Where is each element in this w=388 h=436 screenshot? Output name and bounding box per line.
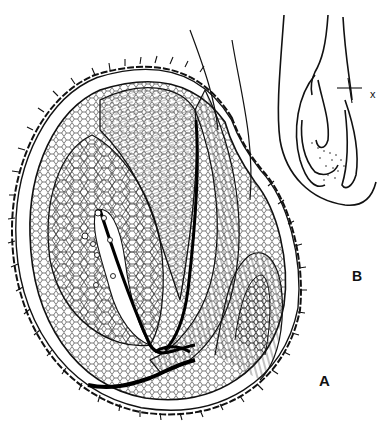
panel-b-drawing	[278, 15, 376, 205]
figure-drawing	[0, 0, 388, 436]
panel-label-b: B	[352, 268, 362, 284]
plane-marker-label: x	[370, 88, 376, 100]
panel-label-a: A	[319, 372, 330, 389]
panel-a-drawing	[8, 30, 307, 420]
figure	[0, 0, 388, 436]
